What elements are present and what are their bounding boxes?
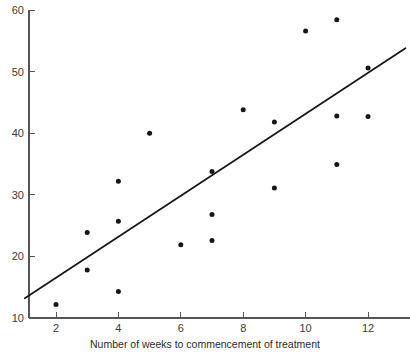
data-point — [334, 17, 339, 22]
data-point — [366, 114, 371, 119]
x-tick-label: 12 — [362, 322, 374, 334]
x-tick-label: 10 — [299, 322, 311, 334]
x-tick-label: 4 — [115, 322, 121, 334]
scatter-plot-figure: 102030405060 24681012 Number of weeks to… — [0, 0, 410, 358]
data-points-group — [54, 17, 371, 307]
y-tick-label: 30 — [12, 189, 24, 201]
data-point — [272, 186, 277, 191]
data-point — [272, 120, 277, 125]
data-point — [178, 242, 183, 247]
data-point — [366, 65, 371, 70]
x-tick-label: 8 — [240, 322, 246, 334]
x-tick-label: 6 — [178, 322, 184, 334]
data-point — [116, 179, 121, 184]
x-axis-title: Number of weeks to commencement of treat… — [90, 338, 320, 350]
y-tick-label: 60 — [12, 4, 24, 16]
data-point — [147, 131, 152, 136]
y-tick-label: 50 — [12, 66, 24, 78]
data-point — [210, 169, 215, 174]
data-point — [85, 230, 90, 235]
y-tick-label: 10 — [12, 312, 24, 324]
data-point — [85, 267, 90, 272]
data-point — [210, 238, 215, 243]
data-point — [303, 28, 308, 33]
plot-canvas: 102030405060 24681012 Number of weeks to… — [0, 0, 410, 358]
data-point — [334, 113, 339, 118]
x-tick-label: 2 — [53, 322, 59, 334]
x-axis-ticks: 24681012 — [53, 312, 374, 334]
data-point — [116, 289, 121, 294]
data-point — [241, 107, 246, 112]
y-axis-ticks: 102030405060 — [12, 4, 35, 324]
data-point — [334, 162, 339, 167]
data-point — [54, 302, 59, 307]
y-tick-label: 40 — [12, 127, 24, 139]
regression-line — [25, 48, 406, 298]
y-tick-label: 20 — [12, 250, 24, 262]
data-point — [210, 212, 215, 217]
data-point — [116, 219, 121, 224]
